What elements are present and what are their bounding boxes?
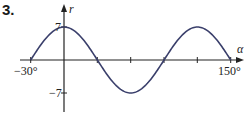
x-axis-label: α xyxy=(237,42,244,56)
polar-graph: r α −30° 150° 7 −7 xyxy=(0,0,247,115)
y-axis-label: r xyxy=(69,2,74,16)
y-axis-arrow-icon xyxy=(61,4,67,12)
x-axis-arrow-icon xyxy=(236,57,244,63)
y-max-label: 7 xyxy=(55,20,61,34)
x-max-label: 150° xyxy=(218,64,241,78)
y-min-label: −7 xyxy=(49,86,62,100)
x-min-label: −30° xyxy=(14,64,38,78)
